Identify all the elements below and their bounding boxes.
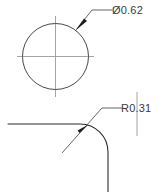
radius-dimension-text: R0.31 bbox=[121, 102, 151, 114]
drawing-svg: Ø0.62 R0.31 bbox=[0, 0, 166, 192]
diameter-leader-group bbox=[76, 10, 113, 31]
circle-feature-group bbox=[17, 16, 94, 97]
diameter-dimension-text: Ø0.62 bbox=[112, 4, 143, 16]
filleted-corner-profile bbox=[8, 124, 108, 192]
radius-leader-group bbox=[62, 108, 122, 153]
fillet-profile-group bbox=[8, 124, 108, 192]
diameter-leader-line bbox=[77, 10, 113, 30]
diameter-arrow-head bbox=[76, 19, 88, 31]
radius-leader-line bbox=[62, 108, 122, 153]
technical-drawing-canvas: Ø0.62 R0.31 bbox=[0, 0, 166, 192]
radius-arrow-head bbox=[78, 125, 89, 134]
